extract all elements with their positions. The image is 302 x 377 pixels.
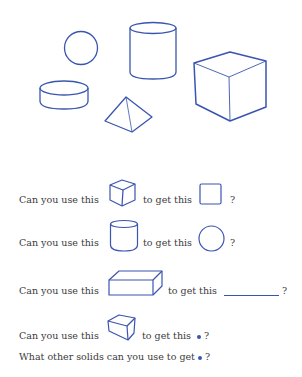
answer-blank-line	[224, 295, 279, 296]
point-icon	[198, 356, 202, 360]
question-prefix: Can you use this	[19, 237, 99, 248]
cylinder-icon	[130, 23, 176, 80]
rectangular-prism-icon	[108, 268, 164, 298]
question-mark: ?	[205, 351, 210, 362]
question-mark: ?	[230, 194, 235, 205]
solids-figure	[0, 0, 302, 150]
question-mid: to get this	[168, 285, 217, 296]
cylinder-icon	[108, 219, 140, 253]
question-mid: to get this	[143, 194, 192, 205]
question-mark: ?	[282, 285, 287, 296]
question-mark: ?	[230, 237, 235, 248]
question-mark: ?	[204, 330, 209, 341]
point-icon	[197, 335, 201, 339]
sphere-icon	[65, 32, 98, 65]
question-mid: to get this	[143, 237, 192, 248]
cube-icon	[194, 52, 266, 121]
cube-icon	[107, 312, 137, 342]
pyramid-icon	[105, 97, 152, 132]
disc-icon	[40, 81, 88, 109]
final-question-text: What other solids can you use to get	[19, 351, 195, 362]
circle-icon	[198, 225, 226, 253]
question-prefix: Can you use this	[19, 194, 99, 205]
question-mid: to get this	[142, 330, 191, 341]
question-prefix: Can you use this	[19, 285, 99, 296]
square-icon	[199, 183, 223, 207]
question-prefix: Can you use this	[19, 330, 99, 341]
cube-icon	[108, 179, 138, 207]
